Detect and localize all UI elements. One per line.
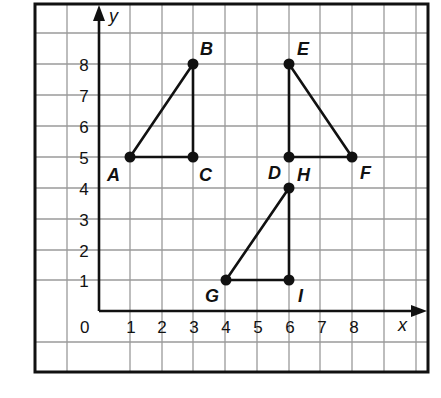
x-tick-labels: 1 2 3 4 5 6 7 8 <box>126 318 358 337</box>
y-axis-arrow-icon <box>93 5 105 21</box>
label-d: D <box>268 163 281 183</box>
x-axis-arrow-icon <box>411 305 427 317</box>
y-tick: 3 <box>79 211 88 230</box>
point-d <box>284 152 295 163</box>
x-tick: 6 <box>285 318 294 337</box>
point-g <box>221 275 232 286</box>
label-c: C <box>199 165 213 185</box>
x-tick: 8 <box>349 318 358 337</box>
x-tick: 4 <box>221 318 230 337</box>
y-tick: 7 <box>79 87 88 106</box>
y-tick: 5 <box>79 149 88 168</box>
y-tick: 6 <box>79 118 88 137</box>
axes <box>93 5 427 317</box>
point-c <box>188 152 199 163</box>
label-e: E <box>297 39 310 59</box>
vertex-labels: A B C D E F G H I <box>106 39 372 306</box>
coordinate-grid: y x 0 1 2 3 4 5 6 7 8 1 2 3 4 5 6 7 8 <box>0 0 441 398</box>
x-tick: 1 <box>126 318 135 337</box>
label-g: G <box>205 286 219 306</box>
y-axis-label: y <box>107 6 119 26</box>
point-b <box>188 59 199 70</box>
y-tick: 8 <box>79 56 88 75</box>
y-tick: 2 <box>79 242 88 261</box>
point-e <box>284 59 295 70</box>
label-b: B <box>200 39 213 59</box>
vertex-points <box>125 59 358 286</box>
y-tick: 4 <box>79 180 88 199</box>
point-h <box>284 183 295 194</box>
y-tick-labels: 1 2 3 4 5 6 7 8 <box>79 56 88 291</box>
label-h: H <box>297 165 311 185</box>
point-f <box>347 152 358 163</box>
x-tick: 2 <box>157 318 166 337</box>
x-tick: 5 <box>253 318 262 337</box>
label-i: I <box>298 286 304 306</box>
label-a: A <box>106 165 120 185</box>
x-tick: 7 <box>317 318 326 337</box>
label-f: F <box>360 163 372 183</box>
x-tick: 3 <box>189 318 198 337</box>
x-axis-label: x <box>397 315 408 335</box>
point-i <box>284 275 295 286</box>
grid-lines <box>35 4 428 372</box>
y-tick: 1 <box>79 272 88 291</box>
point-a <box>125 152 136 163</box>
origin-label: 0 <box>80 318 89 337</box>
